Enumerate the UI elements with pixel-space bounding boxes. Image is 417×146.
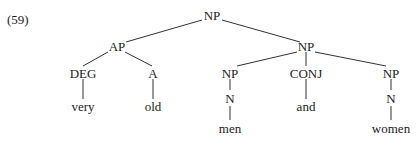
- node-np-root: NP: [204, 9, 221, 23]
- node-n-left: N: [225, 92, 234, 106]
- word-men: men: [219, 122, 241, 136]
- word-women: women: [372, 122, 410, 136]
- node-conj: CONJ: [290, 67, 323, 81]
- word-very: very: [71, 100, 94, 114]
- node-np-left: NP: [222, 67, 239, 81]
- word-and: and: [297, 100, 316, 114]
- node-a: A: [148, 67, 157, 81]
- node-n-right: N: [386, 92, 395, 106]
- node-np-coord: NP: [298, 40, 315, 54]
- word-old: old: [145, 100, 162, 114]
- node-np-right: NP: [383, 67, 400, 81]
- node-deg: DEG: [70, 67, 97, 81]
- node-ap: AP: [109, 40, 126, 54]
